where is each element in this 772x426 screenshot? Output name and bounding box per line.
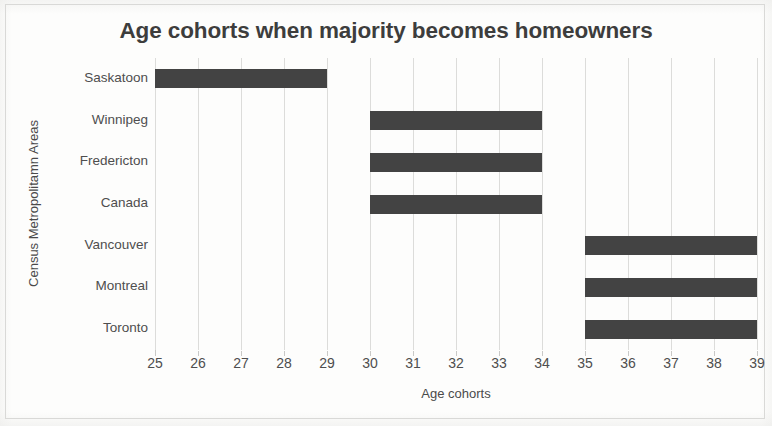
- x-axis-label-38: 38: [694, 355, 734, 371]
- x-axis-label-30: 30: [350, 355, 390, 371]
- x-axis-label-34: 34: [522, 355, 562, 371]
- x-axis-tick-labels: 252627282930313233343536373839: [155, 355, 757, 377]
- x-axis-label-26: 26: [178, 355, 218, 371]
- y-axis-label-canada: Canada: [0, 195, 148, 210]
- bar-saskatoon[interactable]: [155, 69, 327, 88]
- x-axis-label-32: 32: [436, 355, 476, 371]
- plot-area: [155, 58, 757, 350]
- gridline: [284, 58, 285, 350]
- x-axis-title: Age cohorts: [155, 386, 757, 401]
- y-axis-label-saskatoon: Saskatoon: [0, 70, 148, 85]
- bar-montreal[interactable]: [585, 278, 757, 297]
- gridline: [542, 58, 543, 350]
- y-axis-label-fredericton: Fredericton: [0, 153, 148, 168]
- bar-vancouver[interactable]: [585, 236, 757, 255]
- y-axis-label-montreal: Montreal: [0, 278, 148, 293]
- x-axis-label-29: 29: [307, 355, 347, 371]
- y-axis-category-labels: SaskatoonWinnipegFrederictonCanadaVancou…: [0, 58, 148, 350]
- x-axis-label-35: 35: [565, 355, 605, 371]
- x-axis-label-25: 25: [135, 355, 175, 371]
- gridline: [671, 58, 672, 350]
- chart-container: Age cohorts when majority becomes homeow…: [0, 0, 772, 426]
- gridline: [714, 58, 715, 350]
- x-axis-label-33: 33: [479, 355, 519, 371]
- x-axis-label-27: 27: [221, 355, 261, 371]
- y-axis-label-toronto: Toronto: [0, 320, 148, 335]
- gridline: [241, 58, 242, 350]
- gridline: [155, 58, 156, 350]
- bar-fredericton[interactable]: [370, 153, 542, 172]
- gridline: [198, 58, 199, 350]
- bar-canada[interactable]: [370, 195, 542, 214]
- chart-title: Age cohorts when majority becomes homeow…: [0, 18, 772, 44]
- gridline: [628, 58, 629, 350]
- bar-toronto[interactable]: [585, 320, 757, 339]
- x-axis-label-39: 39: [737, 355, 772, 371]
- x-axis-label-28: 28: [264, 355, 304, 371]
- y-axis-label-vancouver: Vancouver: [0, 237, 148, 252]
- x-axis-label-36: 36: [608, 355, 648, 371]
- gridline: [585, 58, 586, 350]
- bar-winnipeg[interactable]: [370, 111, 542, 130]
- gridline: [757, 58, 758, 350]
- y-axis-label-winnipeg: Winnipeg: [0, 112, 148, 127]
- x-axis-label-31: 31: [393, 355, 433, 371]
- gridline: [327, 58, 328, 350]
- x-axis-label-37: 37: [651, 355, 691, 371]
